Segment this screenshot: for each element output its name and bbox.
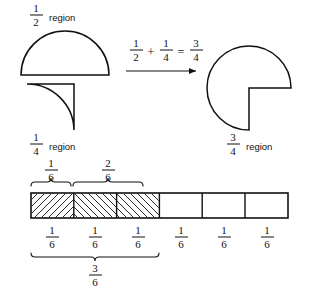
cell-4-denominator: 6	[178, 238, 184, 250]
equals-operator: =	[178, 45, 185, 59]
bar-cell-label-6: 1 6	[261, 224, 274, 250]
cell-2-numerator: 1	[92, 224, 98, 236]
bar-cell-label-5: 1 6	[218, 224, 231, 250]
cell-4-numerator: 1	[178, 224, 184, 236]
fraction-bar-model	[31, 193, 288, 218]
cell-1-numerator: 1	[49, 224, 55, 236]
equation-b-numerator: 1	[163, 37, 169, 49]
quarter-region-label: 1 4 region	[30, 131, 75, 157]
quarter-denominator: 4	[33, 145, 39, 157]
three-quarter-region-word: region	[246, 141, 272, 152]
figure-canvas: 1 2 region 1 4 region 1 2 + 1 4 = 3 4	[0, 0, 312, 288]
bar-cell-1-fill	[32, 194, 73, 217]
top-brace-2-numerator: 2	[105, 157, 111, 169]
equation-a-numerator: 1	[133, 37, 139, 49]
bar-cell-3-fill	[116, 194, 159, 217]
half-disc-icon	[21, 31, 109, 75]
bottom-brace	[31, 253, 159, 261]
bar-cell-label-3: 1 6	[132, 224, 145, 250]
top-brace-1-numerator: 1	[48, 157, 54, 169]
fraction-diagram-figure: 1 2 region 1 4 region 1 2 + 1 4 = 3 4	[0, 0, 312, 288]
equation-a-denominator: 2	[133, 51, 139, 63]
quarter-numerator: 1	[33, 131, 39, 143]
cell-1-denominator: 6	[49, 238, 55, 250]
cell-3-denominator: 6	[135, 238, 141, 250]
equation-c-numerator: 3	[193, 37, 199, 49]
quarter-disc-icon	[27, 84, 74, 130]
bottom-brace-label: 3 6	[89, 262, 102, 288]
equation-c-denominator: 4	[193, 51, 199, 63]
equation-b-denominator: 4	[163, 51, 169, 63]
half-region-word: region	[49, 12, 75, 23]
half-region-label: 1 2 region	[30, 2, 75, 28]
bar-cell-2-fill	[73, 194, 116, 217]
bar-cell-label-1: 1 6	[46, 224, 59, 250]
bar-cell-label-2: 1 6	[89, 224, 102, 250]
equation: 1 2 + 1 4 = 3 4	[126, 37, 203, 71]
half-numerator: 1	[33, 2, 39, 14]
bottom-brace-denominator: 6	[92, 276, 98, 288]
bottom-brace-numerator: 3	[92, 262, 98, 274]
cell-2-denominator: 6	[92, 238, 98, 250]
three-quarter-region-label: 3 4 region	[227, 131, 272, 157]
plus-operator: +	[148, 45, 155, 59]
cell-5-numerator: 1	[221, 224, 227, 236]
quarter-region-word: region	[49, 141, 75, 152]
cell-6-denominator: 6	[264, 238, 270, 250]
cell-5-denominator: 6	[221, 238, 227, 250]
three-quarter-denominator: 4	[230, 145, 236, 157]
cell-3-numerator: 1	[135, 224, 141, 236]
bar-cell-label-4: 1 6	[175, 224, 188, 250]
half-denominator: 2	[33, 16, 39, 28]
three-quarter-disc-icon	[207, 46, 291, 130]
three-quarter-numerator: 3	[230, 131, 236, 143]
cell-6-numerator: 1	[264, 224, 270, 236]
